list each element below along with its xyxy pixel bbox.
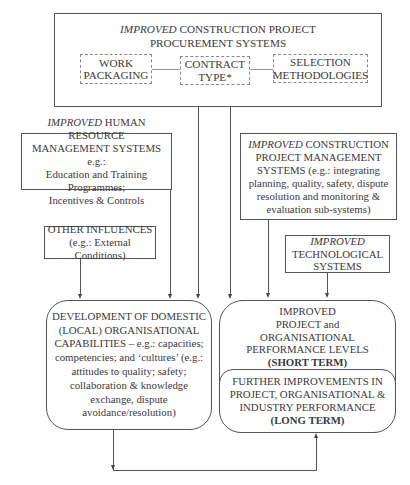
selection-methodologies-box: SELECTION METHODOLOGIES	[273, 54, 368, 83]
feedback-line-horizontal	[113, 470, 317, 471]
arrow-head-icon	[266, 293, 270, 298]
feedback-line-up	[316, 438, 317, 471]
short-term-section: IMPROVED PROJECT and ORGANISATIONAL PERF…	[219, 307, 396, 367]
hr-systems-box: IMPROVED HUMAN RESOURCE MANAGEMENT SYSTE…	[21, 133, 172, 190]
connector-line	[152, 69, 180, 70]
arrow-line-pm-to-performance	[268, 220, 269, 294]
arrow-line-tech-to-performance	[327, 273, 328, 294]
domestic-capabilities-box: DEVELOPMENT OF DOMESTIC (LOCAL) ORGANISA…	[46, 300, 212, 430]
contract-type-box: CONTRACT TYPE*	[180, 56, 250, 85]
work-packaging-box: WORK PACKAGING	[80, 54, 152, 84]
project-management-systems-box: IMPROVED CONSTRUCTION PROJECT MANAGEMENT…	[240, 133, 397, 220]
arrow-line-other-to-development	[80, 259, 81, 295]
arrow-line-hr-to-development	[170, 190, 171, 295]
arrow-head-icon	[196, 294, 200, 299]
arrow-line-procurement-to-performance	[230, 107, 231, 295]
arrow-head-icon	[314, 433, 318, 438]
arrow-head-icon	[168, 294, 172, 299]
feedback-line-down	[113, 430, 114, 470]
arrow-head-icon	[325, 293, 329, 298]
technological-systems-box: IMPROVED TECHNOLOGICAL SYSTEMS	[285, 235, 390, 273]
other-influences-box: OTHER INFLUENCES (e.g.: External Conditi…	[44, 226, 156, 259]
arrow-line-procurement-to-development	[198, 107, 199, 295]
arrow-head-icon	[228, 294, 232, 299]
connector-line	[250, 69, 273, 70]
procurement-title: IMPROVED CONSTRUCTION PROJECT PROCUREMEN…	[55, 23, 381, 50]
arrow-head-icon	[78, 294, 82, 299]
long-term-section: FURTHER IMPROVEMENTS IN PROJECT, ORGANIS…	[219, 369, 396, 433]
